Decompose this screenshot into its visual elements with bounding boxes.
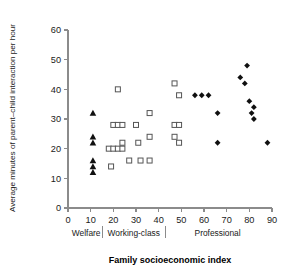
data-point-triangle — [90, 134, 97, 140]
y-tick-label: 60 — [51, 25, 61, 35]
data-point-square — [147, 111, 152, 116]
data-point-diamond — [242, 81, 248, 87]
data-point-diamond — [251, 116, 257, 122]
data-point-triangle — [90, 163, 97, 169]
data-point-diamond — [251, 104, 257, 110]
x-tick-label: 50 — [176, 215, 186, 225]
category-label: Working-class — [108, 228, 160, 238]
category-label: Welfare — [72, 228, 101, 238]
y-tick-label: 20 — [51, 144, 61, 154]
y-tick-label: 10 — [51, 174, 61, 184]
y-tick-label: 50 — [51, 55, 61, 65]
data-point-square — [147, 134, 152, 139]
data-point-diamond — [199, 92, 205, 98]
y-tick-label: 40 — [51, 85, 61, 95]
data-point-square — [177, 122, 182, 127]
data-point-diamond — [237, 75, 243, 81]
data-point-square — [172, 134, 177, 139]
x-tick-label: 0 — [65, 215, 70, 225]
data-point-square — [136, 140, 141, 145]
y-tick-label: 30 — [51, 114, 61, 124]
series-working-class — [106, 81, 181, 169]
data-point-square — [134, 122, 139, 127]
data-points-group — [90, 63, 271, 175]
x-axis-title: Family socioeconomic index — [109, 255, 232, 265]
data-point-diamond — [215, 110, 221, 116]
x-tick-label: 80 — [244, 215, 254, 225]
series-professional — [192, 63, 270, 146]
data-point-square — [127, 158, 132, 163]
x-tick-label: 60 — [199, 215, 209, 225]
data-point-square — [120, 146, 125, 151]
data-point-square — [177, 140, 182, 145]
data-point-diamond — [192, 92, 198, 98]
x-tick-label: 90 — [267, 215, 277, 225]
x-tick-label: 30 — [131, 215, 141, 225]
data-point-square — [172, 81, 177, 86]
data-point-square — [120, 140, 125, 145]
data-point-square — [115, 87, 120, 92]
category-band-group: WelfareWorking-classProfessional — [72, 226, 241, 238]
x-tick-label: 40 — [154, 215, 164, 225]
chart-canvas: 0102030405060 0102030405060708090 Welfar… — [0, 0, 282, 277]
data-point-diamond — [215, 140, 221, 146]
data-point-triangle — [90, 169, 97, 175]
category-label: Professional — [195, 228, 241, 238]
x-tick-label: 20 — [108, 215, 118, 225]
data-point-square — [147, 158, 152, 163]
data-point-square — [177, 93, 182, 98]
scatter-chart-figure: 0102030405060 0102030405060708090 Welfar… — [0, 0, 282, 277]
x-tick-label: 70 — [222, 215, 232, 225]
data-point-triangle — [90, 157, 97, 163]
y-tick-label: 0 — [56, 203, 61, 213]
y-axis-title: Average minutes of parent–child interact… — [8, 24, 17, 212]
data-point-square — [109, 164, 114, 169]
data-point-diamond — [244, 63, 250, 69]
series-welfare — [90, 110, 97, 175]
data-point-diamond — [246, 98, 252, 104]
data-point-triangle — [90, 110, 97, 116]
data-point-square — [138, 158, 143, 163]
data-point-diamond — [265, 140, 271, 146]
data-point-diamond — [206, 92, 212, 98]
x-axis-group: 0102030405060708090 — [65, 208, 277, 225]
data-point-triangle — [90, 139, 97, 145]
data-point-diamond — [249, 110, 255, 116]
data-point-square — [120, 122, 125, 127]
y-axis-group: 0102030405060 — [51, 25, 68, 213]
x-tick-label: 10 — [86, 215, 96, 225]
